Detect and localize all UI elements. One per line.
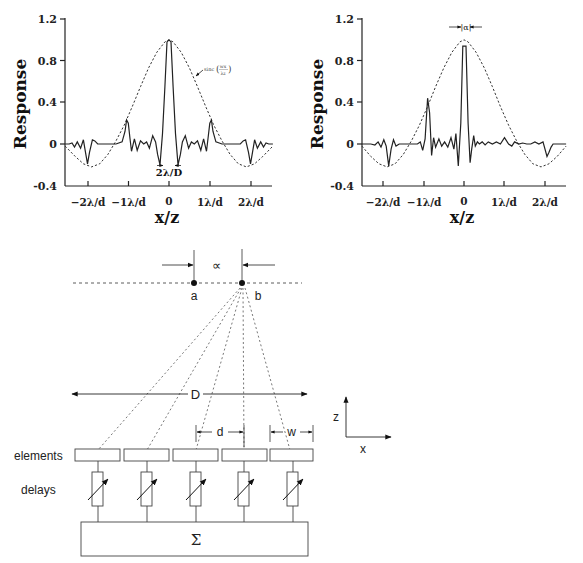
chart-left-axes — [60, 18, 272, 186]
left-xtick-label: −1λ/d — [111, 196, 146, 208]
left-y-axis-title: Response — [10, 59, 30, 150]
element-4 — [222, 449, 267, 461]
left-ytick-label: -0.4 — [33, 180, 57, 193]
x-axis-label: x — [360, 442, 366, 456]
right-ytick-label: 1.2 — [335, 13, 354, 26]
alpha-offset-annotation: |α| — [449, 23, 482, 32]
left-xtick-label: −2λ/d — [71, 196, 106, 208]
left-xtick-label: 2λ/d — [238, 196, 265, 208]
right-response-curve — [362, 46, 566, 166]
left-ytick-label: 1.2 — [38, 13, 57, 26]
right-xtick-label: 1λ/d — [491, 196, 518, 208]
delay-boxes — [92, 472, 298, 506]
delay-3 — [190, 472, 201, 506]
left-xtick-label: 1λ/d — [197, 196, 224, 208]
right-ytick-label: -0.4 — [330, 180, 354, 193]
sinc-paren-close: ) — [228, 64, 232, 74]
chart-right: 1.2 0.8 0.4 0 -0.4 −2λ/d −1λ/d 0 1λ/d 2λ… — [307, 13, 566, 227]
right-x-axis-title: x/z — [450, 208, 474, 227]
delay-2 — [141, 472, 152, 506]
width-label: w — [286, 425, 296, 439]
right-envelope-curve — [362, 40, 566, 167]
right-ytick-label: 0.4 — [335, 96, 354, 109]
left-ytick-label: 0 — [49, 138, 57, 151]
pitch-label: d — [217, 425, 224, 439]
aperture-label: D — [191, 387, 200, 402]
sinc-annotation: sinc ( wx λz ) — [196, 64, 232, 76]
transducer-elements — [75, 449, 313, 461]
figure-canvas: 1.2 0.8 0.4 0 -0.4 −2λ/d −1λ/d 0 1λ/d 2λ… — [0, 0, 583, 563]
array-diagram: ∝ a b D d w z x — [14, 249, 391, 556]
right-xtick-label: −2λ/d — [366, 196, 401, 208]
mainlobe-width-annotation: 2λ/D — [156, 166, 183, 179]
point-a — [191, 280, 197, 286]
right-ytick-label: 0.8 — [335, 55, 354, 68]
left-xtick-label: 0 — [165, 195, 172, 207]
delays-label: delays — [21, 483, 56, 497]
delay-1 — [92, 472, 103, 506]
chart-left: 1.2 0.8 0.4 0 -0.4 −2λ/d −1λ/d 0 1λ/d 2λ… — [10, 13, 273, 227]
sinc-denominator: λz — [220, 71, 226, 76]
sinc-numerator: wx — [220, 64, 227, 69]
delay-4 — [238, 472, 249, 506]
element-5 — [270, 449, 313, 461]
left-ytick-label: 0.8 — [38, 55, 57, 68]
right-xtick-label: 0 — [460, 195, 467, 207]
ray-lines — [98, 288, 290, 450]
element-1 — [75, 449, 120, 461]
point-a-label: a — [191, 289, 198, 303]
mainlobe-width-label: 2λ/D — [156, 167, 183, 178]
left-response-curve — [65, 40, 273, 165]
right-y-axis-title: Response — [307, 59, 327, 150]
right-ytick-label: 0 — [346, 138, 354, 151]
elements-label: elements — [14, 449, 63, 463]
point-b — [239, 280, 245, 286]
alpha-label: ∝ — [212, 258, 221, 273]
right-xtick-label: 2λ/d — [532, 196, 559, 208]
left-envelope-curve — [65, 40, 273, 167]
summation-label: Σ — [191, 531, 202, 549]
alpha-offset-label: |α| — [461, 23, 472, 32]
point-b-label: b — [255, 289, 262, 303]
element-3 — [173, 449, 218, 461]
right-xtick-label: −1λ/d — [407, 196, 442, 208]
element-2 — [124, 449, 169, 461]
sinc-label: sinc — [204, 66, 214, 72]
left-x-axis-title: x/z — [155, 208, 179, 227]
z-axis-label: z — [333, 410, 339, 424]
delay-5 — [287, 472, 298, 506]
left-ytick-label: 0.4 — [38, 96, 57, 109]
